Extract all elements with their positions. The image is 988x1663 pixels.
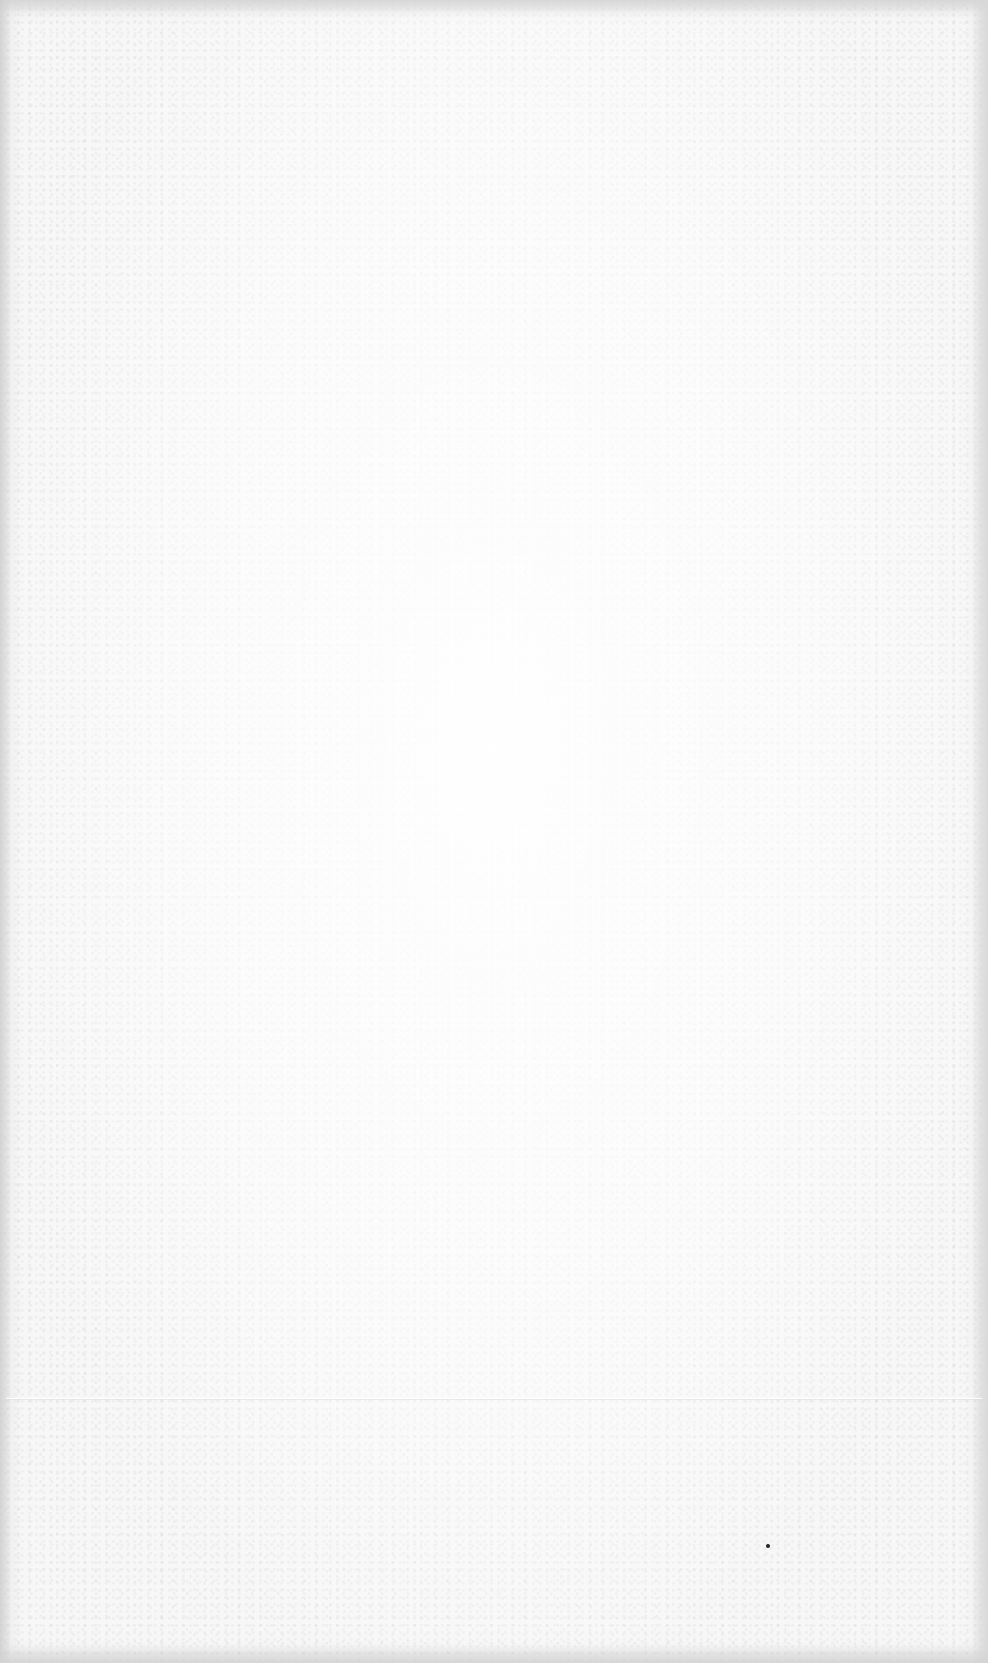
scan-edge-shadow-left	[0, 0, 10, 1663]
scan-edge-shadow-top	[0, 0, 988, 14]
blank-paper-sheet	[0, 0, 988, 1663]
paper-crease-line	[6, 1398, 982, 1399]
scan-edge-shadow-right	[972, 0, 988, 1663]
scan-edge-shadow-bottom	[0, 1645, 988, 1663]
dust-speck	[766, 1544, 770, 1548]
